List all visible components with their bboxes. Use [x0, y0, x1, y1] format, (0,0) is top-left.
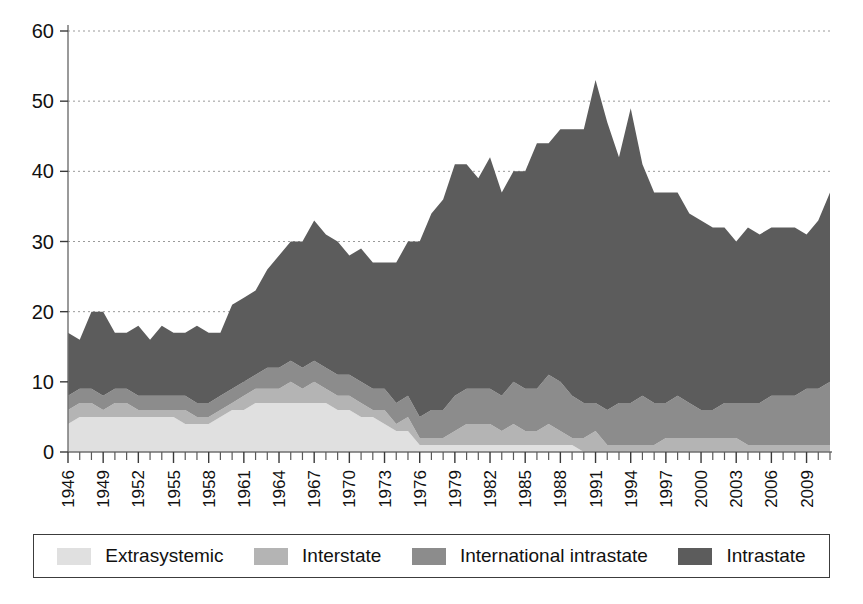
y-tick-label-10: 10 [32, 371, 54, 393]
x-tick-label-2000: 2000 [692, 470, 711, 508]
stacked-area-chart: 0102030405060194619491952195519581961196… [0, 0, 863, 604]
x-tick-label-1967: 1967 [305, 470, 324, 508]
legend-item-interstate[interactable]: Interstate [254, 545, 381, 567]
x-tick-label-1949: 1949 [94, 470, 113, 508]
plot-area: 0102030405060194619491952195519581961196… [0, 0, 863, 530]
x-tick-label-1958: 1958 [200, 470, 219, 508]
x-tick-label-1994: 1994 [622, 470, 641, 508]
x-tick-label-1964: 1964 [270, 470, 289, 508]
legend-label: Interstate [302, 545, 381, 567]
legend-label: Intrastate [726, 545, 805, 567]
legend-swatch-icon [57, 548, 91, 565]
x-tick-label-2003: 2003 [727, 470, 746, 508]
x-tick-label-1979: 1979 [446, 470, 465, 508]
legend-swatch-icon [254, 548, 288, 565]
legend-swatch-icon [412, 548, 446, 565]
y-tick-label-50: 50 [32, 90, 54, 112]
x-tick-label-2006: 2006 [762, 470, 781, 508]
x-tick-label-1997: 1997 [657, 470, 676, 508]
y-tick-label-20: 20 [32, 301, 54, 323]
legend-item-international-intrastate[interactable]: International intrastate [412, 545, 648, 567]
x-tick-label-1952: 1952 [129, 470, 148, 508]
legend-item-extrasystemic[interactable]: Extrasystemic [57, 545, 223, 567]
legend-item-intrastate[interactable]: Intrastate [678, 545, 805, 567]
x-tick-label-1961: 1961 [235, 470, 254, 508]
x-tick-label-1985: 1985 [516, 470, 535, 508]
y-tick-label-40: 40 [32, 160, 54, 182]
chart-legend: ExtrasystemicInterstateInternational int… [33, 534, 830, 578]
x-tick-label-1988: 1988 [551, 470, 570, 508]
x-tick-label-1970: 1970 [340, 470, 359, 508]
x-tick-label-1973: 1973 [376, 470, 395, 508]
x-tick-label-1991: 1991 [587, 470, 606, 508]
x-tick-label-1946: 1946 [59, 470, 78, 508]
legend-label: International intrastate [460, 545, 648, 567]
x-tick-label-2009: 2009 [798, 470, 817, 508]
x-tick-label-1976: 1976 [411, 470, 430, 508]
y-tick-label-60: 60 [32, 20, 54, 42]
y-tick-label-0: 0 [43, 441, 54, 463]
legend-label: Extrasystemic [105, 545, 223, 567]
legend-swatch-icon [678, 548, 712, 565]
x-tick-label-1982: 1982 [481, 470, 500, 508]
y-tick-label-30: 30 [32, 231, 54, 253]
area-series-intrastate [68, 80, 830, 417]
x-tick-label-1955: 1955 [165, 470, 184, 508]
